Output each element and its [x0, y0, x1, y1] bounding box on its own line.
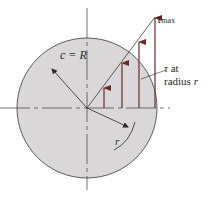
torsion-diagram [0, 0, 211, 201]
radius-r-label: radius r [164, 76, 198, 87]
outer-radius-label: c = R [60, 49, 87, 61]
radius-r-symbol: r [194, 75, 198, 87]
tau-max-label: τmax [157, 13, 175, 25]
at-text: at [168, 62, 179, 74]
tau-at-radius-label: τ at [164, 63, 179, 74]
radius-text: radius [164, 75, 194, 87]
tau-max-subscript: max [161, 16, 175, 25]
inner-radius-label: r [115, 136, 119, 147]
